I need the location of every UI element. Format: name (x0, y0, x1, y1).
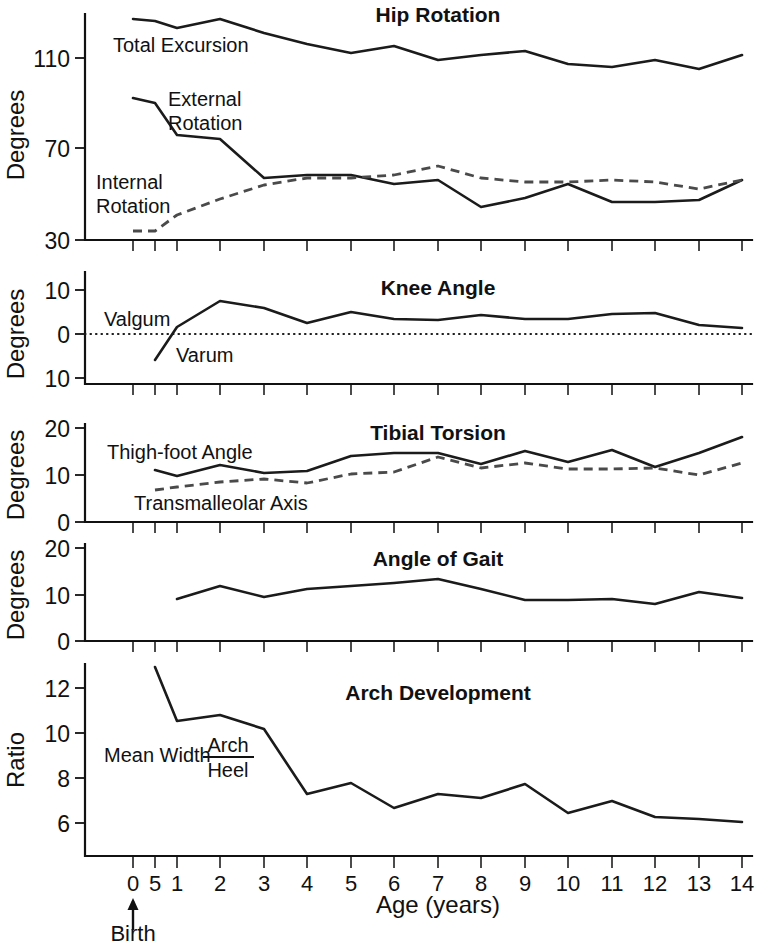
knee-ytick-m10: 10 (44, 366, 70, 392)
xtick-label-13: 13 (687, 871, 711, 896)
xtick-label-11: 11 (601, 871, 624, 896)
tibial-label-thigh-foot: Thigh-foot Angle (107, 441, 253, 463)
hip-ytick-70: 70 (44, 136, 70, 162)
gait-y-ticks (75, 548, 85, 641)
xtick-label-9: 9 (519, 871, 531, 896)
panel-tibial-torsion: 20 10 0 Degrees (2, 416, 752, 536)
xtick-label-4: 4 (301, 871, 313, 896)
hip-label-external-line2: Rotation (168, 112, 243, 134)
knee-x-ticks (133, 384, 742, 395)
tibial-y-axis-title: Degrees (2, 430, 29, 521)
arch-panel-title: Arch Development (345, 681, 531, 704)
xtick-label-12: 12 (643, 871, 667, 896)
gait-x-ticks (133, 641, 742, 652)
gait-y-axis-title: Degrees (2, 550, 29, 641)
hip-label-external-line1: External (168, 88, 241, 110)
arch-ytick-10: 10 (44, 721, 70, 747)
hip-label-internal-line1: Internal (96, 171, 163, 193)
knee-y-axis-title: Degrees (2, 289, 29, 380)
xtick-label-14: 14 (730, 871, 754, 896)
tibial-y-ticks (75, 428, 85, 522)
gait-ytick-10: 10 (44, 583, 70, 609)
tibial-x-ticks (133, 522, 742, 533)
tibial-ytick-10: 10 (44, 463, 70, 489)
panel-hip-rotation: 110 70 30 Degrees (2, 3, 752, 254)
knee-ytick-10: 10 (44, 278, 70, 304)
panel-angle-of-gait: 20 10 0 Degrees (2, 536, 752, 655)
arch-label-mean-width-ratio: Mean Width Arch Heel (104, 734, 254, 781)
hip-x-ticks (133, 240, 742, 251)
knee-label-valgum: Valgum (104, 308, 170, 330)
knee-panel-title: Knee Angle (381, 276, 496, 299)
hip-internal-rotation-line (133, 166, 742, 231)
arch-label-fraction-denominator: Heel (207, 759, 248, 781)
hip-y-axis-title: Degrees (2, 90, 29, 181)
arch-ytick-8: 8 (57, 766, 70, 792)
knee-y-ticks (75, 290, 85, 378)
arch-label-mean-width: Mean Width (104, 744, 211, 766)
arch-label-fraction-numerator: Arch (207, 734, 248, 756)
tibial-label-transmalleolar: Transmalleolar Axis (134, 492, 308, 514)
gait-ytick-0: 0 (57, 629, 70, 655)
arch-ytick-6: 6 (57, 811, 70, 837)
panel-knee-angle: 10 0 10 Degrees (2, 272, 752, 395)
multi-panel-growth-chart: 110 70 30 Degrees (0, 0, 762, 945)
xtick-label-5: 5 (345, 871, 357, 896)
hip-label-total-excursion: Total Excursion (113, 34, 249, 56)
arch-y-ticks (75, 688, 85, 823)
hip-label-internal-line2: Rotation (96, 195, 171, 217)
arch-x-ticks (133, 856, 742, 868)
xtick-label-0: 0 (127, 871, 139, 896)
tibial-ytick-20: 20 (44, 416, 70, 442)
hip-ytick-30: 30 (44, 228, 70, 254)
xtick-label-10: 10 (556, 871, 580, 896)
xtick-label-0-5: 5 (149, 871, 161, 896)
gait-angle-line (177, 579, 742, 604)
knee-ytick-0: 0 (57, 322, 70, 348)
panel-arch-development: 12 10 8 6 Ratio (2, 664, 752, 868)
gait-ytick-20: 20 (44, 536, 70, 562)
tibial-ytick-0: 0 (57, 510, 70, 536)
gait-panel-title: Angle of Gait (373, 547, 504, 570)
knee-label-varum: Varum (176, 344, 233, 366)
knee-angle-line (155, 301, 742, 360)
birth-marker-label: Birth (110, 921, 155, 945)
hip-panel-title: Hip Rotation (376, 3, 501, 26)
arch-ytick-12: 12 (44, 676, 70, 702)
xtick-label-3: 3 (258, 871, 270, 896)
figure-canvas: 110 70 30 Degrees (0, 0, 762, 945)
hip-ytick-110: 110 (33, 46, 70, 72)
x-axis-title: Age (years) (376, 891, 500, 918)
arch-y-axis-title: Ratio (2, 732, 29, 788)
xtick-label-1: 1 (171, 871, 183, 896)
xtick-label-2: 2 (214, 871, 226, 896)
tibial-panel-title: Tibial Torsion (370, 421, 506, 444)
hip-y-ticks (75, 58, 85, 240)
